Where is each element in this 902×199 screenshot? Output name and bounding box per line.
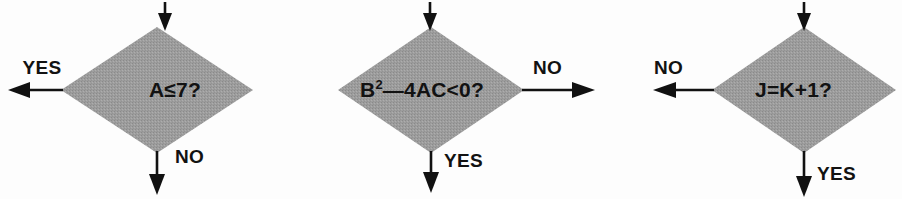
condition-text-b-b: B <box>360 78 375 101</box>
inlet-arrow-b <box>423 2 437 31</box>
decision-node-b[interactable]: B2—4AC<0? NO YES <box>338 2 595 193</box>
branch-arrow-c-yes <box>796 151 812 197</box>
condition-text-b-rest: —4AC<0? <box>383 78 484 101</box>
branch-label-a-yes: YES <box>23 57 62 78</box>
condition-text-c: J=K+1? <box>755 78 832 101</box>
flowchart-figure: A≤7? YES NO B2—4AC<0? <box>0 0 902 199</box>
branch-arrow-a-no <box>149 151 165 195</box>
branch-label-c-no: NO <box>654 57 683 78</box>
decision-node-a[interactable]: A≤7? YES NO <box>8 2 253 195</box>
condition-superscript-b: 2 <box>375 77 382 92</box>
branch-label-b-no: NO <box>533 57 562 78</box>
branch-arrow-b-no <box>522 82 595 98</box>
branch-label-b-yes: YES <box>444 150 483 171</box>
branch-label-a-no: NO <box>175 146 204 167</box>
branch-arrow-a-yes <box>8 82 63 98</box>
branch-label-c-yes: YES <box>817 163 856 184</box>
branch-arrow-b-yes <box>423 151 439 193</box>
flowchart-canvas: A≤7? YES NO B2—4AC<0? <box>0 0 902 199</box>
branch-arrow-c-no <box>653 82 714 98</box>
inlet-arrow-a <box>158 2 172 31</box>
decision-node-c[interactable]: J=K+1? NO YES <box>653 2 896 197</box>
inlet-arrow-c <box>797 2 811 31</box>
condition-text-a: A≤7? <box>149 78 201 101</box>
